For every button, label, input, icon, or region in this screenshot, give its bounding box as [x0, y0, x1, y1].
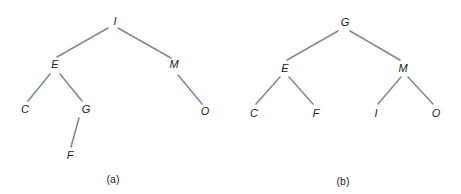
- node-b-G: G: [341, 16, 350, 28]
- edge-b-G-E: [287, 31, 338, 60]
- node-a-M: M: [169, 58, 179, 70]
- caption-a: (a): [107, 173, 120, 185]
- caption-b: (b): [337, 175, 350, 187]
- node-a-E: E: [51, 58, 59, 70]
- tree-b-nodes: G E M C F I O: [250, 16, 441, 119]
- edge-b-M-I: [378, 77, 401, 104]
- node-b-I: I: [374, 107, 377, 119]
- edge-a-I-M: [118, 28, 171, 58]
- edge-a-E-C: [28, 74, 50, 101]
- edge-b-G-M: [350, 31, 400, 60]
- node-b-C: C: [250, 107, 258, 119]
- edge-b-E-F: [289, 77, 313, 104]
- node-a-G: G: [82, 103, 91, 115]
- node-b-O: O: [432, 107, 441, 119]
- tree-a-edges: [28, 28, 202, 147]
- edge-a-I-E: [57, 28, 108, 57]
- tree-a-nodes: I E M C G O F: [21, 15, 210, 161]
- binary-tree-figure: I E M C G O F (a) G E M C F I O (b): [0, 0, 461, 194]
- tree-b: G E M C F I O (b): [250, 16, 441, 187]
- edge-a-G-F: [71, 118, 79, 147]
- node-a-I: I: [113, 15, 116, 27]
- node-b-F: F: [313, 107, 321, 119]
- node-a-C: C: [21, 103, 29, 115]
- edge-b-M-O: [408, 77, 433, 104]
- node-a-O: O: [201, 105, 210, 117]
- node-a-F: F: [67, 149, 75, 161]
- node-b-M: M: [398, 62, 408, 74]
- node-b-E: E: [281, 62, 289, 74]
- edge-b-E-C: [256, 77, 280, 104]
- tree-a: I E M C G O F (a): [21, 15, 210, 185]
- edge-a-M-O: [178, 75, 202, 104]
- edge-a-E-G: [60, 74, 82, 101]
